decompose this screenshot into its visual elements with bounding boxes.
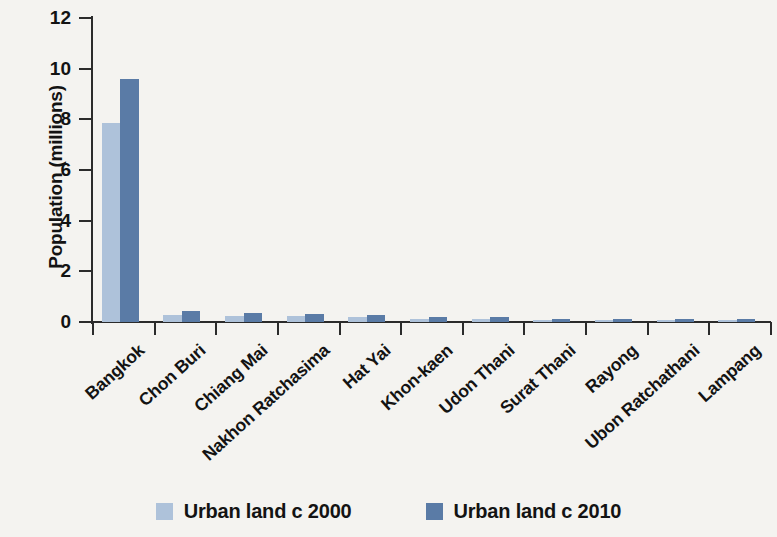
bar <box>718 320 736 322</box>
x-axis-tick <box>339 322 341 335</box>
x-axis-tick <box>92 322 94 335</box>
bars-layer <box>92 18 770 322</box>
x-axis-tick-label: Surat Thani <box>418 340 581 489</box>
bar <box>163 315 181 322</box>
bar <box>533 320 551 322</box>
y-axis-tick <box>79 17 92 19</box>
legend-swatch-urban-2000 <box>156 503 173 520</box>
x-axis-tick <box>770 322 772 335</box>
legend-item-urban-2000: Urban land c 2000 <box>156 500 352 523</box>
bar <box>613 319 631 322</box>
bar <box>367 315 385 322</box>
x-axis-tick <box>400 322 402 335</box>
x-axis-tick-label: Chiang Mai <box>109 340 272 489</box>
x-axis-tick-label: Hat Yai <box>233 340 396 489</box>
legend-swatch-urban-2010 <box>426 503 443 520</box>
bar <box>348 317 366 322</box>
x-axis-tick <box>523 322 525 335</box>
x-axis-tick-label: Lampang <box>603 340 766 489</box>
x-axis-tick-label: Rayong <box>479 340 642 489</box>
bar-chart-figure: Population (millions) 024681012 BangkokC… <box>0 0 777 537</box>
y-axis-tick <box>79 321 92 323</box>
bar <box>737 319 755 322</box>
y-axis-tick-label: 4 <box>11 210 71 232</box>
bar <box>410 319 428 322</box>
bar <box>472 319 490 322</box>
bar <box>595 320 613 322</box>
y-axis-tick <box>79 68 92 70</box>
y-axis-tick-label: 12 <box>11 7 71 29</box>
bar <box>102 123 120 322</box>
bar <box>305 314 323 322</box>
x-axis-tick-label: Bangkok <box>0 340 149 489</box>
x-axis-tick-label: Ubon Ratchathani <box>541 340 704 489</box>
bar <box>287 316 305 322</box>
y-axis-tick <box>79 270 92 272</box>
x-axis-tick <box>215 322 217 335</box>
legend-label-urban-2010: Urban land c 2010 <box>454 500 622 523</box>
bar <box>675 319 693 322</box>
bar <box>657 320 675 322</box>
y-axis-tick-label: 2 <box>11 260 71 282</box>
y-axis-tick-label: 8 <box>11 108 71 130</box>
chart-legend: Urban land c 2000 Urban land c 2010 <box>0 500 777 523</box>
x-axis-tick-label: Khon-kaen <box>294 340 457 489</box>
bar <box>182 311 200 322</box>
bar <box>490 317 508 322</box>
y-axis-tick-label: 6 <box>11 159 71 181</box>
y-axis-tick <box>79 118 92 120</box>
x-axis-tick <box>708 322 710 335</box>
x-axis-tick-label: Udon Thani <box>356 340 519 489</box>
y-axis-tick <box>79 220 92 222</box>
x-axis-tick-label: Chon Buri <box>48 340 211 489</box>
y-axis-tick-label: 0 <box>11 311 71 333</box>
x-axis-tick <box>585 322 587 335</box>
bar <box>429 317 447 322</box>
x-axis-tick <box>154 322 156 335</box>
x-axis-tick <box>462 322 464 335</box>
y-axis-tick-label: 10 <box>11 58 71 80</box>
bar <box>225 316 243 322</box>
x-axis-tick-label: Nakhon Ratchasima <box>171 340 334 489</box>
bar <box>244 313 262 322</box>
bar <box>552 319 570 322</box>
x-axis-tick <box>647 322 649 335</box>
y-axis-tick <box>79 169 92 171</box>
bar <box>120 79 138 322</box>
legend-item-urban-2010: Urban land c 2010 <box>426 500 622 523</box>
x-axis-tick <box>277 322 279 335</box>
legend-label-urban-2000: Urban land c 2000 <box>184 500 352 523</box>
